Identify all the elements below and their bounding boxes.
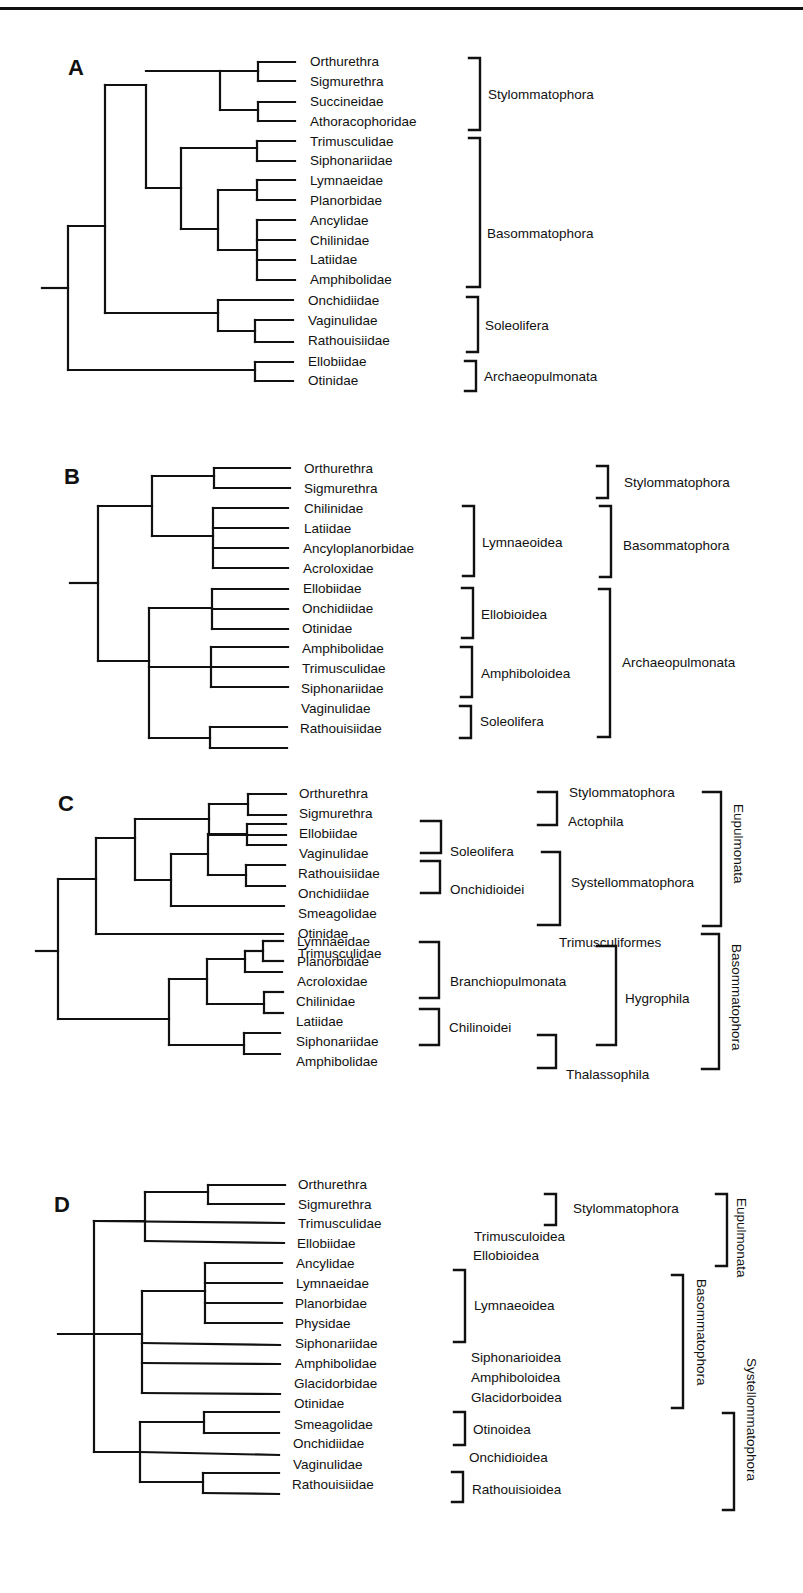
leaf-label: Sigmurethra <box>310 74 384 90</box>
leaf-label: Rathouisiidae <box>292 1477 374 1493</box>
leaf-label: Siphonariidae <box>301 681 384 697</box>
leaf-label: Smeagolidae <box>298 906 377 922</box>
leaf-label: Sigmurethra <box>299 806 373 822</box>
group-label: Chilinoidei <box>449 1020 511 1036</box>
leaf-label: Onchidiidae <box>298 886 369 902</box>
leaf-label: Trimusculidae <box>310 134 394 150</box>
group-label: Stylommatophora <box>624 475 730 491</box>
leaf-label: Ancylidae <box>296 1256 355 1272</box>
leaf-label: Athoracophoridae <box>310 114 417 130</box>
leaf-label: Latiidae <box>304 521 351 537</box>
panel-letter: D <box>54 1192 70 1218</box>
leaf-label: Vaginulidae <box>308 313 378 329</box>
group-label: Soleolifera <box>485 318 549 334</box>
group-label-vertical: Eupulmonata <box>733 1198 749 1278</box>
leaf-label: Orthurethra <box>299 786 368 802</box>
leaf-label: Ancylidae <box>310 213 369 229</box>
leaf-label: Vaginulidae <box>301 701 371 717</box>
leaf-label: Onchidiidae <box>308 293 379 309</box>
leaf-label: Planorbidae <box>310 193 382 209</box>
leaf-label: Amphibolidae <box>295 1356 377 1372</box>
leaf-label: Amphibolidae <box>310 272 392 288</box>
leaf-label: Sigmurethra <box>304 481 378 497</box>
tree-a <box>0 0 803 400</box>
leaf-label: Smeagolidae <box>294 1417 373 1433</box>
leaf-label: Latiidae <box>310 252 357 268</box>
leaf-label: Rathouisiidae <box>300 721 382 737</box>
panel-letter: A <box>68 55 84 81</box>
leaf-label: Trimusculidae <box>298 1216 382 1232</box>
leaf-label: Ellobiidae <box>308 354 367 370</box>
leaf-label: Ellobiidae <box>299 826 358 842</box>
leaf-label: Onchidiidae <box>293 1436 364 1452</box>
leaf-label: Planorbidae <box>295 1296 367 1312</box>
group-label: Trimusculoidea <box>474 1229 565 1245</box>
leaf-label: Siphonariidae <box>310 153 393 169</box>
group-label: Lymnaeoidea <box>482 535 563 551</box>
leaf-label: Otinidae <box>308 373 358 389</box>
leaf-label: Onchidiidae <box>302 601 373 617</box>
leaf-label: Siphonariidae <box>295 1336 378 1352</box>
group-label-vertical: Systellommatophora <box>743 1358 759 1481</box>
leaf-label: Chilinidae <box>304 501 363 517</box>
group-label: Stylommatophora <box>488 87 594 103</box>
group-label: Basommatophora <box>487 226 594 242</box>
leaf-label: Planorbidae <box>297 954 369 970</box>
leaf-label: Rathouisiidae <box>298 866 380 882</box>
panel-letter: C <box>58 791 74 817</box>
leaf-label: Glacidorbidae <box>294 1376 377 1392</box>
leaf-label: Trimusculidae <box>302 661 386 677</box>
tree-d <box>0 1180 803 1593</box>
panel-a: A Orthurethra Sigmurethra Succineidae At… <box>0 0 803 400</box>
leaf-label: Chilinidae <box>310 233 369 249</box>
group-label: Thalassophila <box>566 1067 649 1083</box>
leaf-label: Orthurethra <box>310 54 379 70</box>
group-label: Actophila <box>568 814 624 830</box>
group-label: Branchiopulmonata <box>450 974 566 990</box>
group-label: Onchidioidea <box>469 1450 548 1466</box>
leaf-label: Orthurethra <box>304 461 373 477</box>
leaf-label: Orthurethra <box>298 1177 367 1193</box>
leaf-label: Vaginulidae <box>293 1457 363 1473</box>
leaf-label: Lymnaeidae <box>296 1276 369 1292</box>
leaf-label: Ellobiidae <box>303 581 362 597</box>
group-label: Lymnaeoidea <box>474 1298 555 1314</box>
leaf-label: Ancyloplanorbidae <box>303 541 414 557</box>
group-label: Ellobioidea <box>473 1248 539 1264</box>
leaf-label: Sigmurethra <box>298 1197 372 1213</box>
group-label: Glacidorboidea <box>471 1390 562 1406</box>
group-label: Stylommatophora <box>573 1201 679 1217</box>
group-label: Archaeopulmonata <box>484 369 597 385</box>
group-label: Siphonarioidea <box>471 1350 561 1366</box>
leaf-label: Otinidae <box>294 1396 344 1412</box>
group-label-vertical: Basommatophora <box>693 1279 709 1386</box>
panel-b: B Orthurethra Sigmurethra Chilinidae Lat… <box>0 400 803 780</box>
leaf-label: Vaginulidae <box>299 846 369 862</box>
leaf-label: Rathouisiidae <box>308 333 390 349</box>
group-label: Ellobioidea <box>481 607 547 623</box>
panel-letter: B <box>64 464 80 490</box>
group-label: Soleolifera <box>450 844 514 860</box>
leaf-label: Siphonariidae <box>296 1034 379 1050</box>
group-label-vertical: Eupulmonata <box>730 804 746 884</box>
leaf-label: Ellobiidae <box>297 1236 356 1252</box>
group-label: Trimusculiformes <box>559 935 661 951</box>
group-label: Amphiboloidea <box>471 1370 560 1386</box>
leaf-label: Amphibolidae <box>296 1054 378 1070</box>
leaf-label: Physidae <box>295 1316 351 1332</box>
tree-b <box>0 400 803 780</box>
leaf-label: Acroloxidae <box>303 561 374 577</box>
group-label: Hygrophila <box>625 991 690 1007</box>
panel-c: C Orthurethra Sigmurethra Ellobiidae Vag… <box>0 780 803 1180</box>
leaf-label: Amphibolidae <box>302 641 384 657</box>
leaf-label: Otinidae <box>302 621 352 637</box>
leaf-label: Lymnaeidae <box>297 934 370 950</box>
tree-c <box>0 780 803 1180</box>
leaf-label: Acroloxidae <box>297 974 368 990</box>
leaf-label: Lymnaeidae <box>310 173 383 189</box>
group-label: Stylommatophora <box>569 785 675 801</box>
leaf-label: Latiidae <box>296 1014 343 1030</box>
group-label-vertical: Basommatophora <box>728 944 744 1051</box>
group-label: Archaeopulmonata <box>622 655 735 671</box>
group-label: Onchidioidei <box>450 882 524 898</box>
